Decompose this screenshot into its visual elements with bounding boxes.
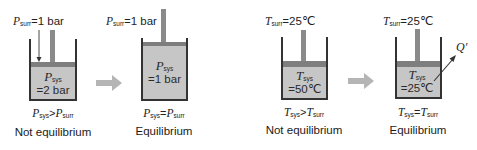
caption: Equilibrium [373,125,463,137]
relation-label: Tsys=Tsurr [378,107,458,119]
heat-label: Q′ [456,40,467,55]
subscript: sys [404,111,414,118]
subscript: surr [427,111,438,118]
